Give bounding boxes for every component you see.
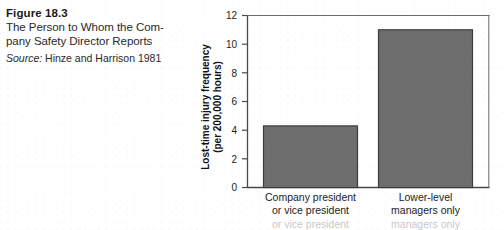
figure-title-line-2: pany Safety Director Reports	[6, 35, 152, 47]
y-axis-title: Lost-time injury frequency (per 200,000 …	[200, 44, 223, 170]
bar-chart: 12 10 8 6 4 2 0 Lost-time injury frequen…	[196, 0, 504, 230]
figure-page: Figure 18.3 The Person to Whom the Com- …	[0, 0, 504, 230]
y-tick-label-8: 8	[231, 68, 237, 79]
chart-svg: 12 10 8 6 4 2 0 Lost-time injury frequen…	[196, 0, 504, 230]
figure-caption: Figure 18.3 The Person to Whom the Com- …	[6, 7, 184, 65]
source-citation: Hinze and Harrison 1981	[42, 52, 161, 64]
chart-bars	[264, 30, 473, 188]
x-axis-category-labels: Company president or vice president Lowe…	[265, 191, 461, 216]
y-axis-title-line-2: (per 200,000 hours)	[212, 61, 223, 153]
y-axis-title-line-1: Lost-time injury frequency	[200, 44, 211, 170]
clipped-bottom-text: or vice president managers only	[272, 218, 461, 230]
y-axis-ticks: 12 10 8 6 4 2 0	[226, 10, 248, 193]
y-tick-label-0: 0	[231, 182, 237, 193]
figure-title-line-1: The Person to Whom the Com-	[6, 21, 164, 33]
figure-source: Source: Hinze and Harrison 1981	[6, 52, 184, 65]
category-label-2-line-1: Lower-level	[399, 191, 453, 203]
y-tick-label-2: 2	[231, 154, 237, 165]
category-label-2-line-2: managers only	[391, 204, 461, 216]
y-tick-label-4: 4	[231, 125, 237, 136]
y-tick-label-12: 12	[226, 10, 238, 21]
bar-lower-level-managers	[379, 30, 473, 188]
figure-title: The Person to Whom the Com- pany Safety …	[6, 21, 184, 48]
clipped-text-left: or vice president	[272, 218, 349, 230]
figure-number: Figure 18.3	[6, 7, 184, 20]
clipped-text-right: managers only	[391, 218, 461, 230]
source-label: Source:	[6, 52, 42, 64]
bar-company-president	[264, 126, 358, 188]
category-label-1-line-1: Company president	[265, 191, 356, 203]
y-tick-label-10: 10	[226, 39, 238, 50]
category-label-1-line-2: or vice president	[272, 204, 349, 216]
y-tick-label-6: 6	[231, 96, 237, 107]
